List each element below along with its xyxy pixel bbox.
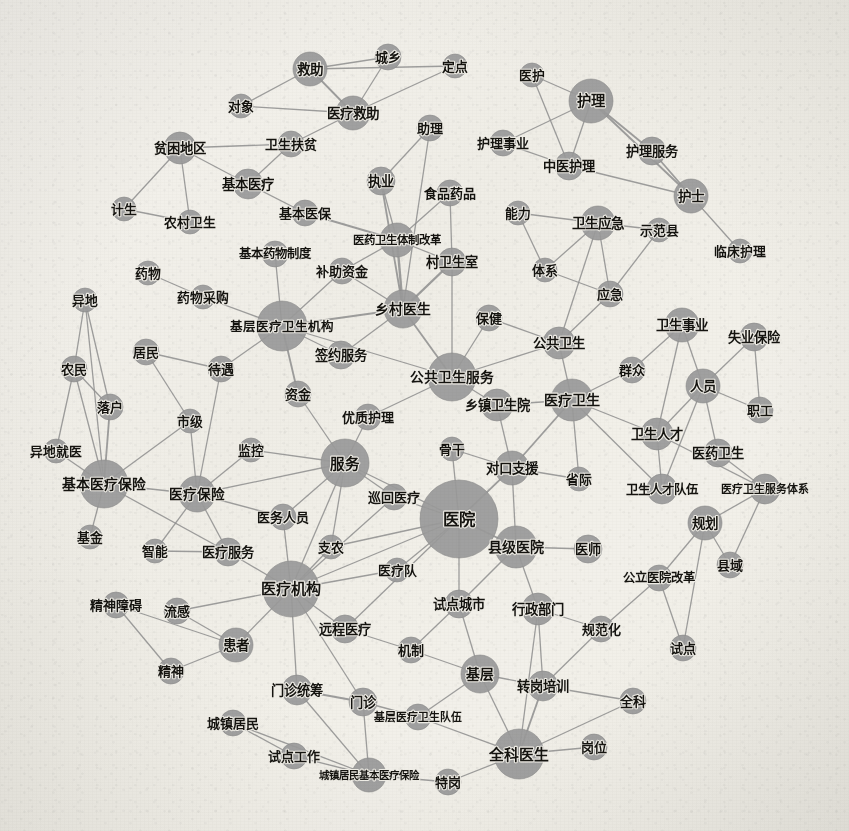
- graph-node-label: 基层医疗卫生机构: [229, 319, 334, 334]
- graph-node-label: 医疗卫生服务体系: [721, 482, 809, 496]
- graph-node-label: 机制: [398, 643, 424, 658]
- graph-node-label: 精神障碍: [90, 598, 142, 613]
- graph-node-label: 失业保险: [728, 329, 781, 345]
- graph-node-label: 护士: [678, 188, 705, 204]
- graph-node-label: 城镇居民: [207, 716, 259, 731]
- graph-node-label: 对口支援: [486, 460, 539, 476]
- graph-node-label: 农村卫生: [163, 215, 216, 230]
- graph-edge: [85, 300, 110, 407]
- graph-node-label: 全科医生: [488, 746, 549, 763]
- graph-node-label: 药物采购: [177, 290, 229, 305]
- graph-node-label: 基本医保: [278, 206, 332, 221]
- graph-node-label: 药物: [135, 266, 161, 281]
- graph-node-label: 能力: [505, 206, 531, 221]
- graph-node-label: 医疗队: [378, 563, 417, 578]
- graph-node-label: 转岗培训: [517, 678, 569, 694]
- graph-node-label: 村卫生室: [426, 254, 478, 270]
- graph-node-label: 助理: [417, 121, 443, 136]
- graph-node-label: 公共卫生: [533, 335, 585, 351]
- graph-node-label: 试点工作: [268, 749, 320, 764]
- graph-node-label: 基本医疗: [221, 176, 274, 192]
- graph-node-label: 临床护理: [714, 244, 766, 259]
- graph-node-label: 医药卫生体制改革: [353, 233, 442, 247]
- graph-node-label: 医院: [443, 510, 476, 529]
- graph-node-label: 规划: [692, 515, 718, 531]
- graph-node-label: 食品药品: [424, 186, 476, 201]
- graph-node-label: 试点城市: [433, 596, 485, 612]
- graph-node-label: 中医护理: [543, 158, 595, 174]
- graph-node-label: 基本医疗保险: [61, 476, 146, 492]
- graph-node-label: 救助: [297, 61, 323, 77]
- graph-node-label: 待遇: [207, 362, 234, 377]
- graph-edge: [85, 300, 104, 484]
- graph-node-label: 远程医疗: [319, 621, 371, 637]
- graph-node-label: 全科: [619, 694, 646, 709]
- labels-layer: 救助城乡定点对象医疗救助卫生扶贫助理医护护理护理事业护理服务中医护理护士贫困地区…: [30, 50, 809, 790]
- graph-node-label: 公共卫生服务: [410, 369, 494, 385]
- graph-node-label: 农民: [60, 362, 87, 377]
- graph-node-label: 规范化: [582, 622, 621, 637]
- graph-edge: [683, 523, 705, 648]
- graph-node-label: 资金: [285, 387, 312, 402]
- graph-node-label: 医护: [519, 68, 545, 83]
- graph-node-label: 县域: [717, 558, 743, 573]
- graph-node-label: 行政部门: [511, 601, 564, 617]
- graph-node-label: 卫生人才: [631, 426, 683, 442]
- graph-node-label: 医疗保险: [169, 486, 225, 502]
- graph-node-label: 护理事业: [477, 136, 529, 151]
- graph-node-label: 卫生人才队伍: [626, 482, 699, 497]
- graph-node-label: 补助资金: [315, 264, 369, 279]
- graph-node-label: 服务: [330, 455, 360, 472]
- graph-node-label: 支农: [317, 540, 344, 555]
- graph-node-label: 贫困地区: [154, 140, 206, 156]
- graph-node-label: 卫生应急: [572, 215, 625, 231]
- graph-node-label: 城乡: [375, 50, 401, 65]
- graph-node-label: 智能: [142, 544, 168, 559]
- graph-node-label: 职工: [747, 403, 773, 418]
- graph-node-label: 示范县: [639, 223, 679, 238]
- graph-node-label: 异地: [72, 293, 98, 308]
- graph-node-label: 岗位: [581, 740, 607, 755]
- graph-node-label: 乡镇卫生院: [465, 397, 531, 413]
- graph-node-label: 医疗救助: [327, 105, 379, 121]
- graph-node-label: 定点: [442, 59, 468, 74]
- graph-node-label: 人员: [690, 378, 716, 394]
- graph-node-label: 医药卫生: [692, 445, 744, 461]
- graph-node-label: 落户: [97, 400, 123, 415]
- graph-node-label: 优质护理: [342, 410, 394, 425]
- graph-node-label: 护理服务: [626, 143, 679, 159]
- graph-node-label: 基本药物制度: [238, 246, 312, 261]
- graph-node-label: 应急: [597, 287, 623, 302]
- graph-node-label: 对象: [228, 99, 254, 114]
- graph-node-label: 医师: [575, 541, 601, 557]
- graph-node-label: 居民: [133, 345, 159, 360]
- graph-node-label: 医疗卫生: [544, 392, 600, 408]
- graph-node-label: 基层医疗卫生队伍: [373, 710, 462, 724]
- graph-node-label: 市级: [177, 414, 203, 429]
- graph-node-label: 患者: [223, 637, 250, 653]
- graph-node-label: 执业: [368, 173, 394, 189]
- graph-node-label: 骨干: [439, 442, 465, 457]
- graph-node-label: 签约服务: [314, 347, 368, 363]
- graph-node-label: 体系: [532, 263, 558, 278]
- graph-node-label: 计生: [111, 202, 137, 217]
- graph-node-label: 护理: [577, 92, 606, 109]
- network-graph: 救助城乡定点对象医疗救助卫生扶贫助理医护护理护理事业护理服务中医护理护士贫困地区…: [0, 0, 849, 831]
- graph-node-label: 保健: [475, 311, 502, 326]
- graph-node-label: 门诊: [350, 694, 377, 710]
- graph-node-label: 省际: [565, 472, 592, 487]
- graph-node-label: 基层: [465, 666, 494, 682]
- graph-node-label: 群众: [619, 363, 645, 378]
- graph-node-label: 县级医院: [488, 539, 544, 555]
- graph-node-label: 门诊统筹: [271, 682, 323, 698]
- graph-node-label: 卫生扶贫: [265, 137, 318, 152]
- graph-node-label: 巡回医疗: [368, 490, 420, 505]
- graph-node-label: 医务人员: [257, 510, 309, 525]
- graph-edge: [403, 128, 430, 309]
- graph-node-label: 医疗机构: [261, 580, 321, 598]
- graph-node-label: 异地就医: [30, 444, 82, 459]
- graph-node-label: 乡村医生: [375, 301, 431, 317]
- graph-node-label: 特岗: [435, 775, 461, 790]
- graph-node-label: 公立医院改革: [623, 570, 695, 585]
- graph-node-label: 试点: [670, 641, 696, 656]
